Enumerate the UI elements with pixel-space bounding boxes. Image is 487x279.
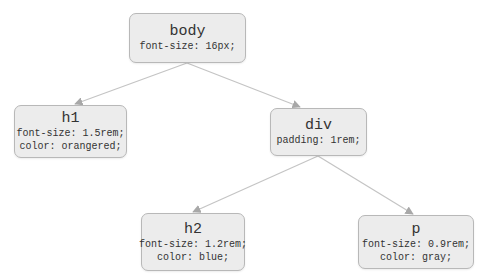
node-h1-rule-font-size: font-size: 1.5rem; [16, 127, 124, 140]
node-body-rule-font-size: font-size: 16px; [139, 40, 235, 53]
node-p-rule-color: color: gray; [380, 251, 452, 264]
node-h2-tag: h2 [184, 221, 202, 238]
node-h1: h1 font-size: 1.5rem; color: orangered; [14, 105, 127, 158]
node-div: div padding: 1rem; [270, 108, 367, 156]
node-p: p font-size: 0.9rem; color: gray; [358, 215, 474, 269]
node-h1-tag: h1 [61, 110, 79, 127]
node-h1-rule-color: color: orangered; [19, 140, 121, 153]
edge-div-p [318, 156, 413, 214]
node-body-tag: body [169, 23, 205, 40]
node-div-tag: div [305, 117, 332, 134]
edge-body-div [187, 63, 300, 107]
node-p-rule-font-size: font-size: 0.9rem; [362, 238, 470, 251]
node-h2: h2 font-size: 1.2rem; color: blue; [141, 213, 245, 271]
node-h2-rule-font-size: font-size: 1.2rem; [139, 238, 247, 251]
node-p-tag: p [411, 221, 420, 238]
node-body: body font-size: 16px; [129, 13, 246, 63]
node-h2-rule-color: color: blue; [157, 251, 229, 264]
edge-body-h1 [75, 63, 187, 104]
edge-div-h2 [193, 156, 318, 212]
node-div-rule-padding: padding: 1rem; [276, 134, 360, 147]
